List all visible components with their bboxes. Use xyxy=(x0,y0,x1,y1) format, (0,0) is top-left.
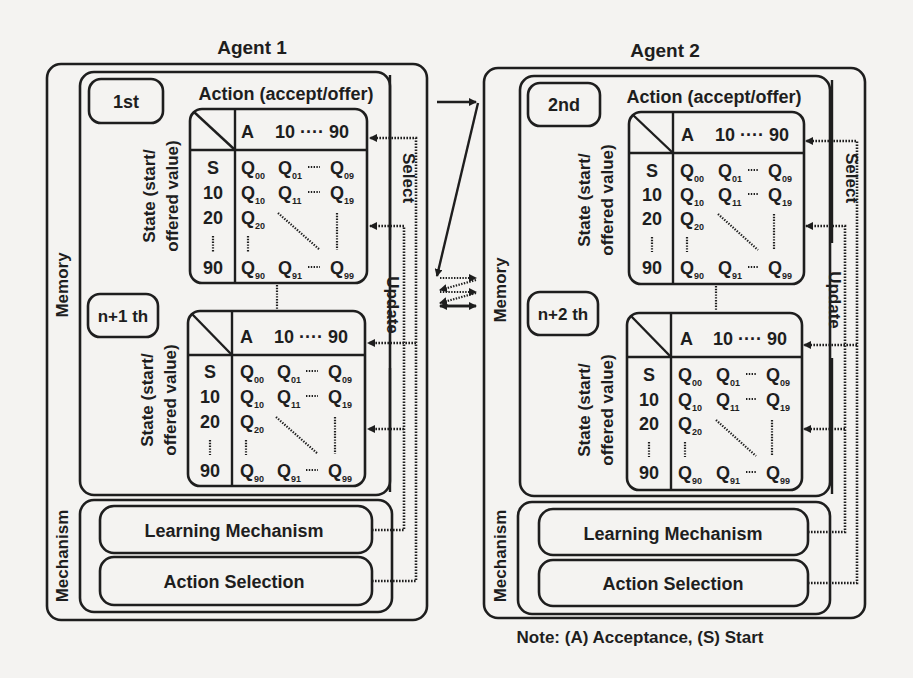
svg-text:Q09: Q09 xyxy=(330,158,354,181)
legend-note: Note: (A) Acceptance, (S) Start xyxy=(517,628,764,647)
svg-text:S: S xyxy=(207,158,219,178)
svg-text:A: A xyxy=(680,329,693,349)
agent-2-state-label-2b: offered value) xyxy=(598,354,617,465)
svg-text:Q11: Q11 xyxy=(718,185,742,208)
agent-1-state-label-2a: State (start/ xyxy=(138,353,157,447)
agent-2-q-table-1: A 10 ···· 90 S 10 20 90 Q00 Q01 Q09 Q10 … xyxy=(629,112,804,284)
agent-2-mechanism-box xyxy=(518,502,830,614)
svg-text:Q91: Q91 xyxy=(278,258,302,281)
agent-1-order-1st-label: 1st xyxy=(113,92,139,112)
agent-diagram: Agent 1 Memory Mechanism Learning Mechan… xyxy=(0,0,913,678)
svg-text:Q01: Q01 xyxy=(718,161,742,184)
agent-2-q-table-2: A 10 ···· 90 S 10 20 90 Q00 Q01 Q09 Q10 … xyxy=(627,313,802,490)
agent-2-update-label: Update xyxy=(825,271,844,329)
svg-text:90: 90 xyxy=(203,258,223,278)
agent-1-memory-label: Memory xyxy=(53,252,72,318)
agent-2-action-selection-label: Action Selection xyxy=(602,574,743,594)
svg-text:90: 90 xyxy=(639,463,659,483)
svg-text:Q00: Q00 xyxy=(240,362,264,385)
svg-text:10: 10 xyxy=(200,387,220,407)
svg-text:Q10: Q10 xyxy=(241,183,265,206)
svg-text:10 ···· 90: 10 ···· 90 xyxy=(713,329,787,349)
agent-1-action-label: Action (accept/offer) xyxy=(198,84,373,104)
agent-1: Agent 1 Memory Mechanism Learning Mechan… xyxy=(47,37,427,620)
agent-1-state-label-1a: State (start/ xyxy=(140,149,159,243)
agent-1-action-selection-label: Action Selection xyxy=(163,572,304,592)
agent-2-order-n2-label: n+2 th xyxy=(538,305,589,324)
agent-1-state-label-2b: offered value) xyxy=(161,344,180,455)
svg-text:10: 10 xyxy=(203,183,223,203)
svg-text:Q90: Q90 xyxy=(680,258,704,281)
agent-2-memory-label: Memory xyxy=(491,257,510,323)
svg-text:Q10: Q10 xyxy=(240,387,264,410)
agent-2-action-label: Action (accept/offer) xyxy=(626,87,801,107)
agent-1-update-path xyxy=(370,226,404,530)
agent-1-title: Agent 1 xyxy=(217,37,287,58)
agent-1-q-table-1: A 10 ···· 90 S 10 20 90 Q00 Q01 Q09 Q10 … xyxy=(190,109,367,283)
svg-text:A: A xyxy=(240,327,253,347)
svg-text:Q01: Q01 xyxy=(716,365,740,388)
svg-text:Q99: Q99 xyxy=(328,461,352,484)
svg-text:Q99: Q99 xyxy=(766,463,790,486)
svg-text:Q99: Q99 xyxy=(768,258,792,281)
svg-text:Q91: Q91 xyxy=(716,463,740,486)
svg-text:Q90: Q90 xyxy=(240,461,264,484)
agent-2-order-2nd-label: 2nd xyxy=(548,95,580,115)
svg-text:Q20: Q20 xyxy=(678,414,702,437)
agent-2: Agent 2 Memory Mechanism Learning Mechan… xyxy=(484,40,865,618)
svg-text:Q91: Q91 xyxy=(277,461,301,484)
svg-text:Q09: Q09 xyxy=(328,362,352,385)
agent-2-learning-mechanism-label: Learning Mechanism xyxy=(583,524,762,544)
svg-text:Q11: Q11 xyxy=(277,387,301,410)
svg-text:A: A xyxy=(241,122,254,142)
svg-text:20: 20 xyxy=(200,412,220,432)
agent-2-state-label-1a: State (start/ xyxy=(575,153,594,247)
svg-text:Q09: Q09 xyxy=(768,161,792,184)
inter-agent-arrows xyxy=(437,102,478,306)
svg-text:Q10: Q10 xyxy=(680,185,704,208)
svg-text:Q01: Q01 xyxy=(277,362,301,385)
svg-text:10 ···· 90: 10 ···· 90 xyxy=(715,125,789,145)
agent-1-order-n1-label: n+1 th xyxy=(98,307,149,326)
svg-text:S: S xyxy=(204,362,216,382)
svg-text:Q01: Q01 xyxy=(278,158,302,181)
svg-text:20: 20 xyxy=(639,414,659,434)
svg-text:90: 90 xyxy=(200,461,220,481)
agent-1-update-label: Update xyxy=(383,276,402,334)
svg-text:Q09: Q09 xyxy=(766,365,790,388)
svg-text:Q19: Q19 xyxy=(330,183,354,206)
svg-text:Q90: Q90 xyxy=(678,463,702,486)
agent-2-state-label-1b: offered value) xyxy=(598,144,617,255)
svg-text:Q00: Q00 xyxy=(241,158,265,181)
svg-text:Q90: Q90 xyxy=(241,258,265,281)
agent-1-mechanism-label: Mechanism xyxy=(53,510,72,603)
svg-text:Q19: Q19 xyxy=(768,185,792,208)
agent-1-learning-mechanism-label: Learning Mechanism xyxy=(144,521,323,541)
svg-text:Q91: Q91 xyxy=(718,258,742,281)
svg-text:10 ···· 90: 10 ···· 90 xyxy=(274,327,348,347)
agent-2-title: Agent 2 xyxy=(630,40,700,61)
svg-text:10 ···· 90: 10 ···· 90 xyxy=(275,122,349,142)
svg-text:20: 20 xyxy=(642,209,662,229)
agent-2-state-label-2a: State (start/ xyxy=(575,363,594,457)
agent-2-mechanism-label: Mechanism xyxy=(491,510,510,603)
svg-text:Q99: Q99 xyxy=(330,258,354,281)
svg-text:10: 10 xyxy=(642,185,662,205)
svg-text:Q11: Q11 xyxy=(716,390,740,413)
svg-text:A: A xyxy=(681,125,694,145)
svg-text:S: S xyxy=(643,365,655,385)
svg-text:Q20: Q20 xyxy=(240,412,264,435)
svg-text:Q19: Q19 xyxy=(766,390,790,413)
svg-text:Q00: Q00 xyxy=(678,365,702,388)
svg-text:Q20: Q20 xyxy=(241,208,265,231)
svg-text:Q11: Q11 xyxy=(278,183,302,206)
svg-text:Q10: Q10 xyxy=(678,390,702,413)
svg-text:10: 10 xyxy=(639,390,659,410)
agent-1-q-table-2: A 10 ···· 90 S 10 20 90 Q00 Q01 Q09 Q10 … xyxy=(188,311,365,486)
svg-text:20: 20 xyxy=(203,208,223,228)
svg-text:Q20: Q20 xyxy=(680,209,704,232)
agent-1-state-label-1b: offered value) xyxy=(163,140,182,251)
svg-text:Q00: Q00 xyxy=(680,161,704,184)
svg-text:Q19: Q19 xyxy=(328,387,352,410)
svg-text:90: 90 xyxy=(642,258,662,278)
